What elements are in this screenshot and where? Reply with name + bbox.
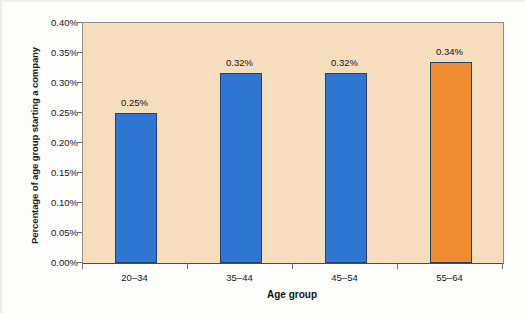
plot-area xyxy=(82,22,504,264)
y-axis-tick-label: 0.40% xyxy=(34,17,78,28)
x-axis-tick-label: 35–44 xyxy=(226,272,252,283)
x-axis-tick-label: 20–34 xyxy=(121,272,147,283)
y-axis-tick-label: 0.35% xyxy=(34,47,78,58)
bar-45-54 xyxy=(325,73,367,264)
y-axis-tick-label: 0.00% xyxy=(34,257,78,268)
bar-20-34 xyxy=(115,113,157,263)
scan-edge-shadow-left xyxy=(0,0,3,313)
y-axis-tick-label: 0.05% xyxy=(34,227,78,238)
y-axis-tick-label: 0.25% xyxy=(34,107,78,118)
x-axis-tick-label: 55–64 xyxy=(436,272,462,283)
x-axis-tick-mark xyxy=(292,263,293,269)
bar-55-64 xyxy=(430,62,472,263)
y-axis-tick-labels: 0.00%0.05%0.10%0.15%0.20%0.25%0.30%0.35%… xyxy=(28,0,78,313)
bar-value-label: 0.32% xyxy=(331,57,358,68)
x-axis-title: Age group xyxy=(82,289,502,300)
x-axis-tick-mark xyxy=(82,263,83,269)
bars-layer xyxy=(83,23,503,263)
x-axis-tick-label: 45–54 xyxy=(331,272,357,283)
bar-35-44 xyxy=(220,73,262,263)
y-axis-tick-label: 0.10% xyxy=(34,197,78,208)
scan-edge-shadow-top xyxy=(0,0,525,3)
y-axis-tick-label: 0.20% xyxy=(34,137,78,148)
bar-value-label: 0.34% xyxy=(436,46,463,57)
x-axis-tick-mark xyxy=(187,263,188,269)
x-axis-tick-mark xyxy=(502,263,503,269)
y-axis-tick-label: 0.15% xyxy=(34,167,78,178)
x-axis-tick-mark xyxy=(397,263,398,269)
y-axis-tick-label: 0.30% xyxy=(34,77,78,88)
bar-chart: Percentage of age group starting a compa… xyxy=(0,0,525,313)
bar-value-label: 0.32% xyxy=(226,57,253,68)
bar-value-label: 0.25% xyxy=(121,97,148,108)
